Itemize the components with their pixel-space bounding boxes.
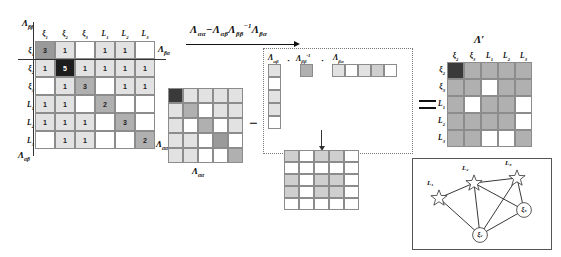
big-matrix-cell-2-4: 1 [115, 77, 135, 95]
lambda-alpha-alpha-cell-0-0 [168, 88, 183, 103]
graph-node-L3[interactable] [508, 169, 526, 187]
product-matrix-cell-2-0 [284, 174, 299, 186]
big-matrix-cell-4-3 [95, 113, 115, 131]
partition-horizontal-line [18, 59, 166, 60]
product-matrix-cell-0-0 [284, 150, 299, 162]
lambda-prime-cell-1-1 [464, 79, 481, 96]
big-matrix-cell-0-2 [75, 41, 95, 59]
lambda-prime-grid [447, 62, 532, 147]
product-matrix-cell-1-3 [329, 162, 344, 174]
graph-node-L1[interactable] [430, 189, 448, 207]
label-lambda-alpha-alpha-big: Λαα [156, 139, 168, 151]
big-matrix-cell-3-1: 1 [55, 95, 75, 113]
row-header-5: L3 [16, 136, 34, 147]
big-matrix-cell-0-5 [135, 41, 155, 59]
product-matrix-cell-1-2 [314, 162, 329, 174]
big-matrix-cell-1-0: 1 [35, 59, 55, 77]
big-matrix-cell-5-5: 2 [135, 131, 155, 149]
lambda-alpha-alpha-cell-0-2 [198, 88, 213, 103]
lp-row-header-2: L1 [432, 99, 445, 110]
label-lambda-beta-beta-inverse: Λββ-1 [296, 53, 311, 64]
big-matrix-cell-5-2: 1 [75, 131, 95, 149]
big-matrix-cell-4-0: 1 [35, 113, 55, 131]
graph-node-label-L3: L₃ [505, 159, 512, 167]
big-matrix-cell-5-0 [35, 131, 55, 149]
lambda-alpha-alpha-cell-1-0 [168, 103, 183, 118]
lambda-alpha-alpha-cell-1-1 [183, 103, 198, 118]
product-matrix-cell-3-3 [329, 186, 344, 198]
lambda-alpha-beta-cell-1-0 [268, 77, 281, 90]
big-matrix-cell-1-1: 5 [55, 59, 75, 77]
big-matrix-cell-3-0: 1 [35, 95, 55, 113]
lambda-alpha-alpha-cell-0-1 [183, 88, 198, 103]
lambda-prime-cell-0-0 [447, 62, 464, 79]
big-matrix-cell-2-0 [35, 77, 55, 95]
graph-node-x3[interactable]: ξ₃ [515, 201, 533, 219]
lambda-alpha-alpha-cell-1-4 [228, 103, 243, 118]
lambda-alpha-alpha-cell-3-2 [198, 133, 213, 148]
lambda-beta-alpha-cell-0-1 [345, 64, 358, 77]
star-icon [508, 169, 526, 187]
lambda-alpha-alpha-cell-4-0 [168, 148, 183, 163]
big-matrix-cell-2-1: 1 [55, 77, 75, 95]
lambda-prime-cell-0-3 [498, 62, 515, 79]
lambda-alpha-alpha-cell-2-2 [198, 118, 213, 133]
lambda-prime-cell-4-1 [464, 130, 481, 147]
product-matrix-cell-1-1 [299, 162, 314, 174]
big-matrix-cell-4-5 [135, 113, 155, 131]
lambda-alpha-alpha-cell-2-3 [213, 118, 228, 133]
label-lambda-alpha-beta: Λαβ [18, 150, 30, 162]
big-matrix-grid: 311115111113111121113112 [35, 41, 155, 149]
lambda-prime-cell-2-4 [515, 96, 532, 113]
product-matrix-cell-4-1 [299, 198, 314, 210]
col-header-3: L1 [95, 29, 115, 40]
lambda-prime-cell-4-4 [515, 130, 532, 147]
product-matrix-cell-4-0 [284, 198, 299, 210]
lambda-alpha-alpha-cell-2-0 [168, 118, 183, 133]
lambda-beta-alpha-cell-0-0 [332, 64, 345, 77]
lambda-beta-beta-inverse-cell [300, 64, 313, 77]
lp-row-header-3: L2 [432, 116, 445, 127]
label-lambda-alpha-alpha: Λαα [192, 166, 204, 178]
label-lambda-beta-alpha-factor: Λβα [333, 53, 344, 64]
lambda-alpha-alpha-cell-2-1 [183, 118, 198, 133]
lambda-alpha-alpha-cell-1-3 [213, 103, 228, 118]
lambda-prime-cell-4-0 [447, 130, 464, 147]
lambda-alpha-beta-cell-0-0 [268, 64, 281, 77]
lp-row-header-1: ξ3 [432, 82, 445, 93]
big-matrix-cell-4-1: 1 [55, 113, 75, 131]
lambda-prime-cell-4-2 [481, 130, 498, 147]
big-matrix-cell-5-4 [115, 131, 135, 149]
minus-operator: − [249, 116, 258, 131]
graph-node-label-L1: L₁ [427, 179, 434, 187]
graph-node-L2[interactable] [465, 174, 483, 192]
product-matrix-cell-2-2 [314, 174, 329, 186]
product-matrix-cell-3-2 [314, 186, 329, 198]
graph-node-x2[interactable]: ξ₂ [471, 226, 489, 244]
product-matrix-cell-0-1 [299, 150, 314, 162]
formula-arrow-line [186, 44, 296, 45]
big-matrix-cell-0-0: 3 [35, 41, 55, 59]
lambda-prime-cell-3-3 [498, 113, 515, 130]
lambda-prime-cell-3-1 [464, 113, 481, 130]
lambda-prime-cell-2-3 [498, 96, 515, 113]
lambda-prime-cell-0-2 [481, 62, 498, 79]
graph-node-label-x2: ξ₂ [471, 230, 489, 238]
big-matrix-cell-5-1: 1 [55, 131, 75, 149]
product-matrix-cell-1-0 [284, 162, 299, 174]
lambda-prime-cell-2-2 [481, 96, 498, 113]
label-lambda-beta-beta: Λββ [22, 18, 34, 30]
lp-row-header-0: ξ2 [432, 65, 445, 76]
big-matrix-cell-3-4 [115, 95, 135, 113]
lambda-alpha-alpha-cell-3-0 [168, 133, 183, 148]
lambda-prime-col-headers: ξ2 ξ3 L1 L2 L3 [447, 51, 532, 61]
graph-node-label-x3: ξ₃ [515, 205, 533, 213]
big-matrix-cell-0-3: 1 [95, 41, 115, 59]
col-header-0: ξ1 [35, 29, 55, 40]
formula-text: Λαα−ΛαβΛββ−1Λβα [190, 22, 267, 37]
lambda-prime-cell-1-0 [447, 79, 464, 96]
lambda-beta-alpha-row [332, 64, 397, 77]
product-matrix-cell-0-4 [344, 150, 359, 162]
lambda-prime-row-headers: ξ2 ξ3 L1 L2 L3 [432, 62, 445, 147]
big-matrix-cell-4-2: 1 [75, 113, 95, 131]
